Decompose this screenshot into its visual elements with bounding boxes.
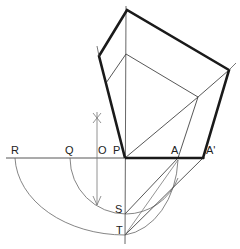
pentagon-outline [99, 10, 229, 158]
tick-left [97, 46, 99, 56]
label-A: A [171, 144, 179, 156]
vertical-axis [125, 6, 126, 244]
label-R: R [11, 144, 19, 156]
inner-apex-to-left [106, 54, 126, 83]
label-Q: Q [65, 144, 74, 156]
line-S-A [125, 158, 178, 214]
arc-Q-to-S [70, 158, 178, 214]
inner-right-to-A [178, 97, 198, 158]
line-T-A [125, 160, 178, 235]
inner-right-to-P [125, 97, 198, 158]
label-T: T [116, 224, 123, 236]
label-P: P [113, 144, 120, 156]
inner-apex-to-right [126, 54, 198, 97]
tick-right [229, 63, 236, 70]
label-S: S [115, 203, 122, 215]
arc-R-to-T [15, 158, 178, 235]
label-O: O [98, 144, 107, 156]
geometric-construction-diagram: R Q O P A A' S T [0, 0, 240, 249]
line-T-Aprime [125, 158, 203, 235]
label-A-prime: A' [206, 144, 215, 156]
